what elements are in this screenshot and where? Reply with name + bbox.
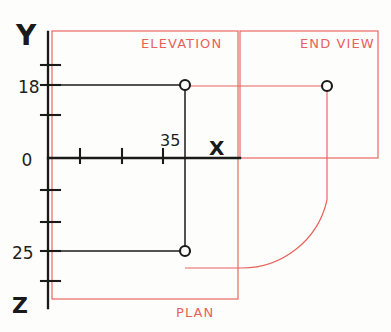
principal-axes — [48, 32, 240, 308]
tick-label-18: 18 — [18, 77, 40, 97]
tick-label-0: 0 — [22, 150, 33, 170]
elevation-point-marker — [180, 80, 190, 90]
drawing-sheet: Y X Z 18 0 25 35 ELEVATION END VIEW PLAN — [0, 0, 391, 332]
z-axis-label: Z — [12, 293, 28, 318]
x-axis-ticks — [80, 149, 163, 163]
plan-view-label: PLAN — [176, 305, 214, 320]
z-axis-ticks — [41, 190, 60, 281]
x-axis-label: X — [209, 136, 225, 160]
plan-frame — [52, 158, 238, 299]
plan-point-marker — [180, 246, 190, 256]
elevation-view-label: ELEVATION — [141, 36, 222, 51]
red-construction-lines — [130, 86, 327, 268]
end-view-point-marker — [322, 81, 332, 91]
projection-drawing: Y X Z 18 0 25 35 ELEVATION END VIEW PLAN — [0, 0, 391, 332]
rotation-arc — [240, 200, 327, 268]
tick-label-25: 25 — [12, 243, 34, 263]
red-view-frames — [52, 31, 378, 299]
y-axis-label: Y — [15, 19, 37, 52]
point-markers — [180, 80, 332, 256]
end-view-label: END VIEW — [300, 36, 375, 51]
tick-label-35: 35 — [160, 131, 180, 150]
y-axis-ticks — [41, 65, 60, 115]
black-construction-lines — [48, 85, 185, 251]
